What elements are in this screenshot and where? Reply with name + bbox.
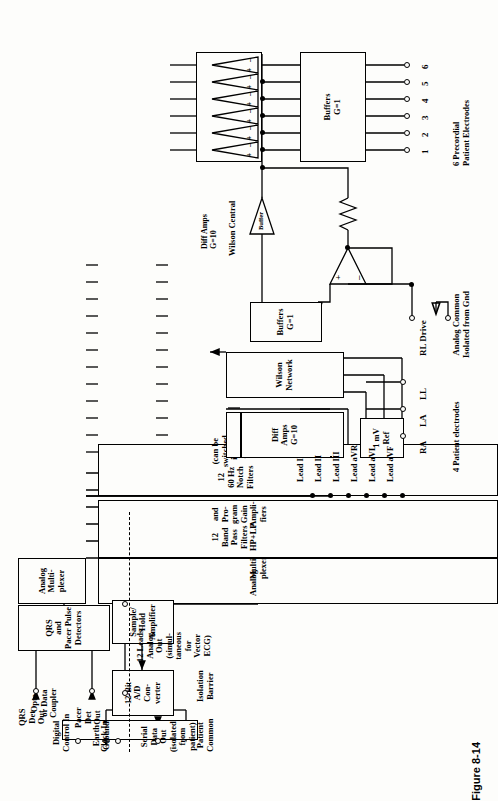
- lead-label-5: Lead aVF: [386, 446, 396, 482]
- label-analog-out: 12 Leads Analog Out (simul- taneous for …: [136, 630, 212, 662]
- precordial-electrode-label-5: 6: [420, 65, 430, 70]
- terminal-precordial-3: [404, 113, 410, 119]
- figure-caption: Figure 8-14: [470, 742, 482, 801]
- junction-dot-rl-input: [409, 282, 414, 287]
- terminal-analog-common: [445, 315, 451, 321]
- terminal-precordial-2: [404, 130, 410, 136]
- precordial-amp-2-minus: –: [246, 126, 254, 130]
- precordial-amp-4-plus: +: [246, 102, 254, 106]
- junction-dot-wilson-bus: [260, 165, 265, 170]
- terminal-qrs-det-out: [33, 688, 39, 694]
- junction-dot-lead-6: [400, 493, 405, 498]
- junction-dot-lead-1: [310, 493, 315, 498]
- precordial-group-label: 6 Precordial Patient Electrodes: [452, 100, 471, 166]
- terminal-electrode-ra: [400, 433, 406, 439]
- label-wilson-central: Wilson Central: [228, 201, 238, 256]
- block-label: Wilson Network: [275, 359, 294, 391]
- terminal-precordial-4: [404, 96, 410, 102]
- terminal-precordial-6: [404, 62, 410, 68]
- terminal-clock-in: [115, 738, 121, 744]
- precordial-amp-1-plus: +: [246, 153, 254, 157]
- terminal-serial-data-out: [155, 738, 161, 744]
- limb-electrode-label-2: LL: [418, 388, 428, 400]
- limb-group-label: 4 Patient electrodes: [452, 401, 462, 472]
- precordial-electrode-label-2: 3: [420, 116, 430, 121]
- label-patient-common: Patient Common: [196, 718, 215, 752]
- precordial-amp-3-minus: –: [246, 109, 254, 113]
- precordial-electrode-label-4: 5: [420, 82, 430, 87]
- buffer-triangle-label: Buffer: [257, 212, 264, 230]
- precordial-amp-6-minus: –: [246, 58, 254, 62]
- lead-label-4: Lead aVL: [368, 445, 378, 482]
- junction-dot-precordial-5: [260, 79, 265, 84]
- terminal-analog-out-left: [122, 690, 128, 696]
- lead-label-2: Lead III: [332, 452, 342, 482]
- precordial-electrode-label-1: 2: [420, 133, 430, 138]
- label-analog-common: Analog Common Isolated from Gnd: [452, 291, 471, 358]
- junction-dot-precordial-3: [260, 113, 265, 118]
- terminal-digital-control-in: [75, 738, 81, 744]
- junction-dot-lead-4: [364, 493, 369, 498]
- junction-dot-lead-5: [382, 493, 387, 498]
- terminal-electrode-rl-drive: [409, 315, 415, 321]
- precordial-electrode-label-0: 1: [420, 150, 430, 155]
- block-label: Buffers G=1: [276, 309, 295, 336]
- junction-dot-precordial-4: [260, 96, 265, 101]
- label-earth-ground: Earth Ground: [92, 721, 111, 750]
- rl-opamp-plus: +: [333, 275, 343, 280]
- precordial-amp-2-plus: +: [246, 136, 254, 140]
- junction-dot-lead-2: [328, 493, 333, 498]
- terminal-pacer-det-out: [89, 688, 95, 694]
- junction-dot-rl-node: [345, 245, 350, 250]
- precordial-amp-4-minus: –: [246, 92, 254, 96]
- terminal-precordial-1: [404, 147, 410, 153]
- terminal-electrode-ll: [400, 379, 406, 385]
- block-wilson-network-visible: Wilson Network: [226, 352, 344, 398]
- terminal-electrode-la: [400, 406, 406, 412]
- label-isolation-barrier: Isolation Barrier: [196, 670, 215, 702]
- limb-electrode-label-0: RA: [418, 441, 428, 454]
- limb-electrode-label-1: LA: [418, 414, 428, 427]
- lead-label-3: Lead aVR: [350, 445, 360, 482]
- precordial-amp-1-minus: –: [246, 143, 254, 147]
- label-digital-control-in: Digital Control In: [52, 714, 71, 752]
- junction-dot-lead-3: [346, 493, 351, 498]
- block-buffers-limb-visible: Buffers G=1: [250, 302, 322, 342]
- precordial-amp-5-plus: +: [246, 85, 254, 89]
- precordial-electrode-label-3: 4: [420, 99, 430, 104]
- junction-dot-precordial-2: [260, 130, 265, 135]
- label-serial-data-out: Serial Data Out (isolated from patient): [140, 721, 197, 752]
- junction-dot-precordial-1: [260, 147, 265, 152]
- precordial-amp-3-plus: +: [246, 119, 254, 123]
- terminal-precordial-5: [404, 79, 410, 85]
- limb-electrode-label-3: RL Drive: [418, 320, 428, 356]
- terminal-analog-out-right: [122, 601, 128, 607]
- precordial-amp-6-plus: +: [246, 68, 254, 72]
- lead-label-1: Lead II: [314, 455, 324, 482]
- lead-label-0: Lead I: [296, 458, 306, 482]
- rl-opamp-minus: –: [353, 276, 363, 281]
- precordial-amp-5-minus: –: [246, 75, 254, 79]
